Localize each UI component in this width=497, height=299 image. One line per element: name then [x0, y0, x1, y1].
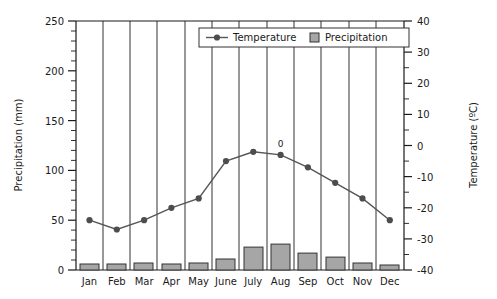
bar-jan: [80, 264, 99, 270]
left-tick-100: 100: [45, 165, 64, 176]
legend-label-precipitation: Precipitation: [325, 32, 388, 43]
right-tick-minus20: -20: [417, 203, 433, 214]
x-label-jan: Jan: [81, 276, 97, 287]
legend-precipitation-swatch-icon: [310, 33, 319, 42]
point-nov: [359, 195, 365, 201]
left-tick-200: 200: [45, 66, 64, 77]
bar-feb: [107, 264, 126, 270]
x-label-aug: Aug: [271, 276, 291, 287]
left-tick-250: 250: [45, 16, 64, 27]
x-label-dec: Dec: [380, 276, 399, 287]
bar-sep: [298, 253, 317, 270]
right-tick-0: 0: [417, 141, 423, 152]
bar-apr: [162, 264, 181, 270]
point-apr: [168, 205, 174, 211]
x-label-may: May: [188, 276, 209, 287]
x-label-apr: Apr: [163, 276, 181, 287]
bar-aug: [271, 244, 290, 270]
x-label-feb: Feb: [108, 276, 126, 287]
point-aug: [278, 152, 284, 158]
point-july: [250, 149, 256, 155]
left-tick-50: 50: [51, 215, 64, 226]
point-sep: [305, 164, 311, 170]
x-label-mar: Mar: [135, 276, 155, 287]
point-oct: [332, 180, 338, 186]
y-axis-left-title: Precipitation (mm): [13, 98, 24, 191]
point-jan: [86, 217, 92, 223]
right-tick-10: 10: [417, 109, 430, 120]
x-label-oct: Oct: [327, 276, 344, 287]
bar-mar: [134, 263, 153, 270]
point-june: [223, 158, 229, 164]
right-tick-minus10: -10: [417, 172, 433, 183]
point-may: [196, 195, 202, 201]
right-tick-minus30: -30: [417, 234, 433, 245]
right-tick-40: 40: [417, 16, 430, 27]
chart-canvas: 250 200 150 100 50 0 Precipitation (mm): [0, 0, 497, 299]
x-label-july: July: [243, 276, 262, 287]
chart-legend: Temperature Precipitation: [199, 28, 409, 47]
right-tick-minus40: -40: [417, 265, 433, 276]
point-mar: [141, 217, 147, 223]
bar-nov: [353, 263, 372, 270]
x-label-sep: Sep: [298, 276, 317, 287]
legend-temperature-marker-icon: [214, 34, 220, 40]
left-tick-150: 150: [45, 116, 64, 127]
x-label-june: June: [214, 276, 237, 287]
point-feb: [114, 226, 120, 232]
right-tick-20: 20: [417, 78, 430, 89]
legend-label-temperature: Temperature: [232, 32, 296, 43]
point-dec: [387, 217, 393, 223]
y-axis-right-title: Temperature (ºC): [468, 102, 479, 189]
bar-oct: [326, 257, 345, 270]
bar-may: [189, 263, 208, 270]
climate-chart: 250 200 150 100 50 0 Precipitation (mm): [0, 0, 497, 299]
bar-dec: [380, 265, 399, 270]
right-tick-30: 30: [417, 47, 430, 58]
bar-june: [216, 259, 235, 270]
bar-july: [244, 247, 263, 270]
aug-value-annotation: 0: [278, 139, 284, 149]
left-tick-0: 0: [58, 265, 64, 276]
x-label-nov: Nov: [353, 276, 373, 287]
